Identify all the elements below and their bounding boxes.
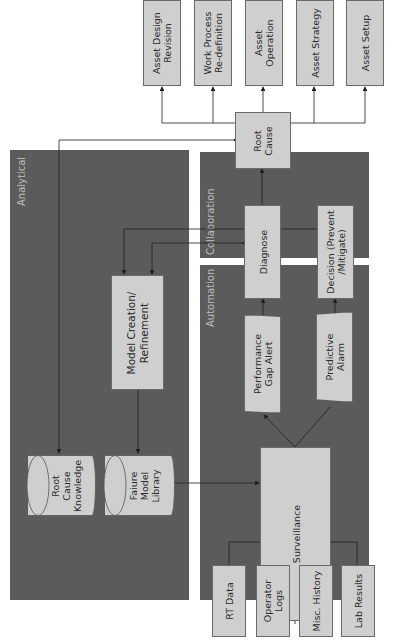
diagnose-label: Diagnose: [257, 230, 268, 274]
output-label: Asset Design Revision: [151, 12, 173, 74]
output-asset-setup: Asset Setup: [346, 0, 384, 86]
input-operator-logs: Operator Logs: [256, 565, 290, 637]
output-label: Asset Strategy: [310, 8, 321, 78]
output-asset-operation: Asset Operation: [245, 0, 283, 86]
output-label: Asset Operation: [253, 19, 275, 66]
performance-gap-alert-node: Performance Gap Alert: [244, 315, 281, 413]
input-misc-history: Misc. History: [299, 565, 333, 637]
output-asset-design-revision: Asset Design Revision: [143, 0, 181, 86]
decision-label: Decision (Prevent /Mitigate): [325, 210, 347, 294]
root-cause-knowledge-label: Root Cause Knowledge: [49, 459, 82, 511]
input-label: RT Data: [224, 582, 235, 619]
performance-gap-alert-label: Performance Gap Alert: [252, 334, 274, 394]
output-asset-strategy: Asset Strategy: [296, 0, 334, 86]
predictive-alarm-node: Predictive Alarm: [316, 312, 353, 402]
root-cause-knowledge-db: Root Cause Knowledge: [24, 455, 96, 516]
input-rt-data: RT Data: [212, 565, 246, 637]
root-cause-label: Root Cause: [252, 126, 274, 155]
diagnose-node: Diagnose: [244, 205, 281, 299]
model-creation-node: Model Creation/ Refinement: [111, 275, 164, 390]
input-lab-results: Lab Results: [341, 565, 375, 637]
predictive-alarm-label: Predictive Alarm: [324, 334, 346, 381]
input-label: Misc. History: [311, 571, 322, 632]
input-label: Operator Logs: [262, 580, 284, 623]
output-label: Work Process Re-definition: [202, 11, 224, 74]
failure-model-library-label: Faiure Model Library: [127, 469, 160, 502]
input-label: Lab Results: [353, 574, 364, 628]
decision-node: Decision (Prevent /Mitigate): [317, 205, 354, 299]
root-cause-node: Root Cause: [235, 112, 291, 169]
model-creation-label: Model Creation/ Refinement: [125, 291, 151, 374]
output-work-process-redefinition: Work Process Re-definition: [194, 0, 232, 86]
failure-model-library-db: Faiure Model Library: [101, 455, 175, 516]
output-label: Asset Setup: [360, 15, 371, 72]
surveillance-label: Surveillance: [290, 505, 301, 563]
